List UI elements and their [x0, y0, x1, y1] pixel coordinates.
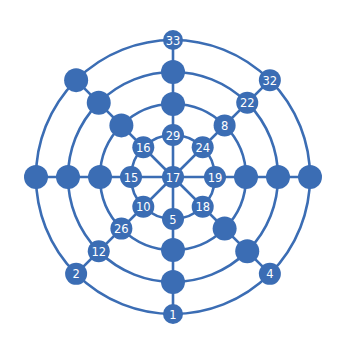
node-label: 19: [208, 171, 223, 185]
blank-node: [24, 165, 48, 189]
blank-node: [298, 165, 322, 189]
blank-node: [266, 165, 290, 189]
blank-node: [213, 217, 237, 241]
blank-node: [109, 113, 133, 137]
node-circle: [161, 238, 185, 262]
numbered-node: 22: [236, 92, 258, 114]
node-label: 26: [114, 222, 129, 236]
node-label: 12: [91, 245, 106, 259]
numbered-node: 8: [214, 114, 236, 136]
numbered-node: 24: [192, 136, 214, 158]
numbered-node: 10: [132, 196, 154, 218]
numbered-node: 32: [259, 69, 281, 91]
node-circle: [161, 92, 185, 116]
blank-node: [64, 68, 88, 92]
numbered-node: 16: [132, 136, 154, 158]
node-circle: [64, 68, 88, 92]
node-label: 15: [124, 171, 139, 185]
node-circle: [24, 165, 48, 189]
radial-number-diagram: 1729332482232191845110261221516: [0, 0, 340, 346]
blank-node: [161, 270, 185, 294]
node-circle: [266, 165, 290, 189]
node-label: 29: [166, 129, 181, 143]
node-circle: [88, 165, 112, 189]
node-circle: [235, 239, 259, 263]
blank-node: [161, 238, 185, 262]
numbered-node: 2: [65, 263, 87, 285]
blank-node: [87, 91, 111, 115]
blank-node: [235, 239, 259, 263]
blank-node: [234, 165, 258, 189]
node-circle: [161, 270, 185, 294]
node-circle: [213, 217, 237, 241]
numbered-node: 15: [120, 166, 142, 188]
node-circle: [87, 91, 111, 115]
node-label: 16: [136, 141, 151, 155]
numbered-node: 18: [192, 196, 214, 218]
numbered-node: 26: [110, 218, 132, 240]
node-label: 10: [136, 200, 151, 214]
blank-node: [161, 60, 185, 84]
node-label: 1: [169, 308, 176, 322]
blank-node: [161, 92, 185, 116]
node-layer: 1729332482232191845110261221516: [24, 30, 322, 324]
numbered-node: 17: [162, 166, 184, 188]
numbered-node: 19: [204, 166, 226, 188]
numbered-node: 12: [88, 240, 110, 262]
node-label: 8: [221, 119, 228, 133]
blank-node: [88, 165, 112, 189]
node-label: 4: [266, 267, 273, 281]
node-circle: [109, 113, 133, 137]
node-label: 32: [263, 74, 278, 88]
node-label: 18: [195, 200, 210, 214]
node-circle: [298, 165, 322, 189]
node-label: 33: [166, 34, 181, 48]
node-label: 24: [195, 141, 210, 155]
numbered-node: 4: [259, 263, 281, 285]
node-circle: [234, 165, 258, 189]
numbered-node: 33: [163, 30, 183, 50]
blank-node: [56, 165, 80, 189]
node-label: 5: [169, 213, 176, 227]
node-label: 17: [166, 171, 181, 185]
node-label: 22: [240, 96, 255, 110]
node-label: 2: [72, 267, 79, 281]
node-circle: [56, 165, 80, 189]
numbered-node: 1: [163, 304, 183, 324]
numbered-node: 5: [162, 208, 184, 230]
numbered-node: 29: [162, 124, 184, 146]
node-circle: [161, 60, 185, 84]
